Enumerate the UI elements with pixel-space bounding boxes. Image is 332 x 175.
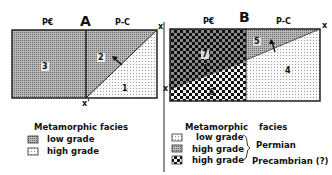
legend-brace xyxy=(243,135,250,160)
legend-swatch-high-grade-permian xyxy=(172,145,182,152)
panel-a-corner-bottom: x' xyxy=(82,99,90,108)
panel-b-legend-heading-left: Metamorphic xyxy=(185,122,248,132)
legend-label-low-grade: low grade xyxy=(47,134,94,144)
region-4-label: 4 xyxy=(285,66,291,75)
legend-label-high-grade-permian: high grade xyxy=(192,144,244,154)
legend-group-precambrian: Precambrian (?) xyxy=(252,156,328,166)
panel-a-col-right: P-C xyxy=(115,18,130,27)
panel-a-map xyxy=(12,30,157,98)
legend-label-low-grade: low grade xyxy=(196,132,243,142)
panel-a-col-left: P€ xyxy=(42,18,53,27)
panel-b-col-right: P-C xyxy=(276,17,291,26)
panel-b-corner-left: x' xyxy=(163,84,171,93)
region-3-label: 3 xyxy=(41,62,49,71)
legend-swatch-high-grade xyxy=(28,148,38,155)
legend-swatch-low-grade xyxy=(172,134,182,141)
panel-b-col-left: P€ xyxy=(203,17,214,26)
legend-group-permian: Permian xyxy=(256,140,296,150)
panel-b-legend-heading-right: facies xyxy=(259,122,287,132)
legend-label-high-grade-precambrian: high grade xyxy=(192,155,244,165)
legend-swatch-high-grade-precambrian xyxy=(172,156,182,164)
panel-a-title: A xyxy=(80,13,91,29)
panel-b-map xyxy=(170,29,320,101)
region-1-label: 1 xyxy=(122,84,128,93)
panel-b-title: B xyxy=(239,9,250,25)
region-6-label: 6 xyxy=(209,88,215,97)
region-5-label: 5 xyxy=(253,37,261,46)
panel-a-corner-top: x xyxy=(158,22,163,31)
legend-label-high-grade: high grade xyxy=(47,146,99,156)
region-2-label: 2 xyxy=(97,53,105,62)
region-7-label: 7 xyxy=(201,50,209,59)
panel-b-corner-top: x xyxy=(322,21,327,30)
legend-swatch-low-grade xyxy=(28,136,38,143)
panel-a-legend-heading: Metamorphic facies xyxy=(34,122,128,132)
